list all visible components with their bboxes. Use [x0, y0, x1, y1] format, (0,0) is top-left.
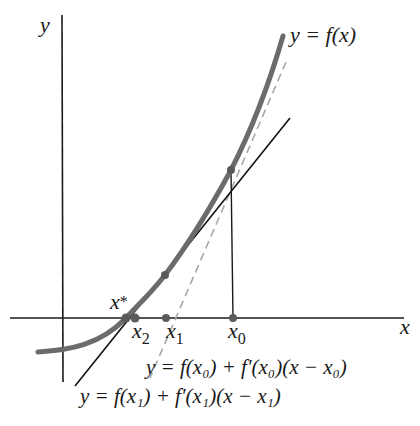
y-axis	[62, 15, 63, 382]
point-on-curve-x1	[161, 271, 169, 279]
x0-label: x0	[227, 318, 246, 347]
curve-label: y = f(x)	[288, 22, 356, 47]
function-curve	[38, 36, 283, 352]
point-x-star	[122, 314, 131, 323]
point-on-curve-x0	[227, 166, 235, 174]
x2-label: x2	[131, 318, 150, 347]
y-axis-label: y	[38, 12, 50, 37]
tangent-x0-equation: y = f(x₀) + f′(x₀)(x − x₀)	[144, 355, 347, 379]
x-axis-label: x	[399, 314, 410, 339]
tangent-x1-equation: y = f(x₁) + f′(x₁)(x − x₁)	[78, 384, 281, 408]
x-star-label: x*	[109, 289, 128, 314]
x1-label: x1	[165, 318, 184, 347]
newton-method-diagram: y x y = f(x) x* x2 x1 x0 y = f(x₀) + f′(…	[0, 0, 420, 426]
